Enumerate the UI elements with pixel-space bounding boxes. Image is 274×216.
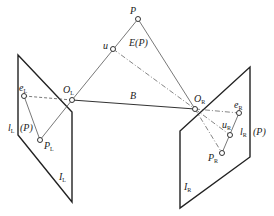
label-uR: uR <box>222 119 231 131</box>
ray-OL-to-eL <box>24 96 72 100</box>
ray-P-to-OL <box>72 19 138 100</box>
label-E-P: E(P) <box>128 37 149 49</box>
ray-P-to-OR <box>138 19 195 109</box>
label-lL: lL <box>8 122 15 134</box>
label-paren-P-left: (P) <box>20 122 33 134</box>
point-u <box>111 47 116 52</box>
label-eR: eR <box>234 99 242 111</box>
label-OR: OR <box>194 93 205 105</box>
label-IL: IL <box>58 171 66 183</box>
label-IR: IR <box>183 181 191 193</box>
point-eL <box>22 94 27 99</box>
point-eR <box>237 111 242 116</box>
label-eL: eL <box>19 82 27 94</box>
point-P <box>136 17 141 22</box>
label-B: B <box>130 90 136 101</box>
point-PL <box>38 138 43 143</box>
label-P: P <box>129 5 136 16</box>
point-uR <box>228 133 233 138</box>
point-OL <box>70 98 75 103</box>
ray-OL-to-PL <box>40 100 72 140</box>
epipolar-geometry-diagram: P u E(P) B OL OR eL PL eR uR PR lL (P) I… <box>0 0 274 216</box>
label-lR: lR <box>240 126 247 138</box>
label-OL: OL <box>63 84 74 96</box>
point-PR <box>220 151 225 156</box>
label-u: u <box>103 40 108 51</box>
point-OR <box>193 107 198 112</box>
label-PR: PR <box>207 152 218 164</box>
baseline-B <box>72 100 195 109</box>
label-paren-P-right: (P) <box>253 126 266 138</box>
epipolar-line-left <box>24 96 40 140</box>
label-PL: PL <box>43 140 54 152</box>
ray-OR-to-PR <box>195 109 222 153</box>
ray-u-to-OR <box>113 49 195 109</box>
